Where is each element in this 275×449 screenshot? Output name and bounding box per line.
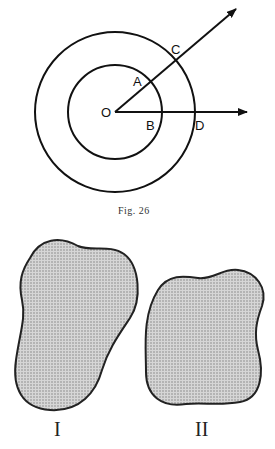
figure-shapes: I II (15, 240, 263, 440)
ray-oc (115, 9, 236, 112)
region-label-i: I (54, 418, 61, 440)
region-i (15, 240, 138, 410)
diagram-canvas: O A B C D Fig. 26 I II (0, 0, 275, 449)
figure-26: O A B C D Fig. 26 (35, 9, 247, 216)
point-label-d: D (195, 118, 204, 133)
region-ii (146, 270, 264, 405)
point-label-a: A (133, 74, 142, 89)
region-label-ii: II (195, 418, 208, 440)
point-label-b: B (146, 118, 155, 133)
figure-caption: Fig. 26 (118, 205, 150, 216)
point-label-c: C (171, 42, 180, 57)
point-label-o: O (101, 105, 111, 120)
